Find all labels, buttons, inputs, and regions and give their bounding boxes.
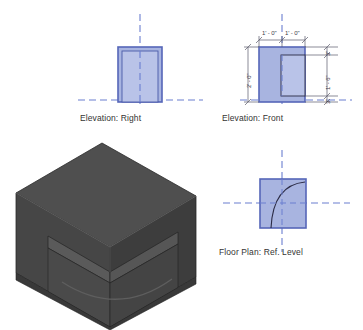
isometric-cube [16, 143, 196, 330]
drawing-sheet: Elevation: Right [0, 0, 363, 330]
isometric-view-graphic [0, 0, 363, 330]
